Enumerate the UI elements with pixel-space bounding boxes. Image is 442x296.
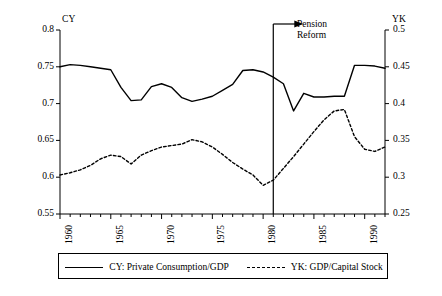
pension-reform-label: Pension Reform <box>297 19 327 40</box>
series-line <box>60 109 385 185</box>
legend-dashed-swatch <box>247 267 285 268</box>
data-series <box>60 65 385 186</box>
chart-legend: CY: Private Consumption/GDPYK: GDP/Capit… <box>58 253 388 279</box>
legend-entry: CY: Private Consumption/GDP <box>65 262 228 272</box>
legend-solid-swatch <box>65 267 103 268</box>
plot-area <box>0 0 442 296</box>
pension-reform-annotation <box>273 21 303 215</box>
legend-entry: YK: GDP/Capital Stock <box>247 262 383 272</box>
chart-figure: CY YK 0.550.60.650.70.750.8 0.250.30.350… <box>0 0 442 296</box>
series-line <box>60 65 385 111</box>
legend-label: YK: GDP/Capital Stock <box>291 262 383 272</box>
legend-label: CY: Private Consumption/GDP <box>109 262 228 272</box>
axes <box>56 30 389 219</box>
